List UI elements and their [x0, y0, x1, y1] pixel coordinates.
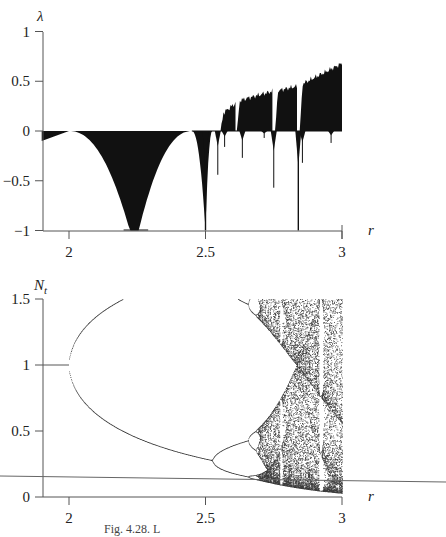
lyapunov-spike-wedge [261, 131, 267, 133]
lyapunov-spike-wedge [271, 131, 277, 151]
x-axis-label-r-top: r [368, 222, 374, 238]
x-tick-label-top: 2.5 [196, 244, 215, 260]
y-tick-label-bottom: 0 [23, 489, 31, 505]
y-tick-label-top: 0.5 [11, 73, 30, 89]
x-tick-label-top: 2 [65, 244, 73, 260]
lyapunov-positive-fill [237, 88, 273, 131]
y-tick-label-bottom: 1.5 [11, 291, 30, 307]
bifurcation-scatter [69, 299, 343, 494]
y-tick-label-top: −1 [14, 223, 30, 239]
bifurcation-chart: 1.510.50 22.53 Nt r [11, 277, 374, 526]
y-tick-label-top: 0 [23, 123, 31, 139]
lyapunov-negative-fill [42, 131, 222, 231]
bifurcation-points [69, 299, 343, 494]
lyapunov-spike-wedge [222, 131, 228, 137]
y-ticks-bottom: 1.510.50 [11, 291, 43, 505]
y-axis-label-lambda: λ [36, 8, 44, 24]
lyapunov-spike-wedge [295, 131, 301, 166]
lyapunov-positive-fill [300, 63, 342, 131]
lyapunov-spike-wedge [328, 131, 334, 135]
y-axis-label-subscript-t: t [44, 284, 48, 296]
x-tick-label-bottom: 3 [338, 510, 346, 526]
lyapunov-chart: 10.50−0.5−1 22.53 λ r [3, 8, 374, 260]
stray-horizontal-line [0, 476, 446, 482]
x-tick-label-top: 3 [338, 244, 346, 260]
lyapunov-spike-wedge [215, 131, 221, 146]
y-tick-label-top: −0.5 [3, 173, 30, 189]
x-axis-label-r-bottom: r [368, 488, 374, 504]
y-axis-label-Nt: Nt [33, 277, 48, 296]
y-tick-label-bottom: 0.5 [11, 423, 30, 439]
lyapunov-positive-fill [275, 84, 297, 131]
figure-canvas: 10.50−0.5−1 22.53 λ r 1.510.50 22.53 Nt … [0, 0, 446, 537]
lyapunov-floor [124, 230, 149, 231]
x-tick-label-bottom: 2.5 [196, 510, 215, 526]
x-ticks-top: 22.53 [65, 231, 346, 260]
figure-caption: Fig. 4.28. L [104, 522, 160, 537]
lyapunov-positive-fill [221, 102, 236, 131]
lyapunov-spike-wedge [239, 131, 245, 140]
y-ticks-top: 10.50−0.5−1 [3, 24, 43, 239]
x-tick-label-bottom: 2 [65, 510, 73, 526]
y-tick-label-top: 1 [23, 24, 31, 40]
lyapunov-area [42, 63, 342, 231]
y-tick-label-bottom: 1 [23, 357, 31, 373]
